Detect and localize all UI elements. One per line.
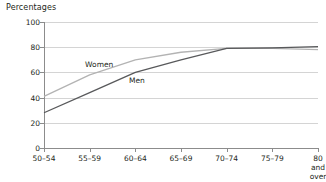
series-line-women (44, 48, 318, 96)
series-label-men: Men (129, 76, 145, 85)
series-line-men (44, 47, 318, 113)
line-chart: Percentages 020406080100 50–5455–5960–64… (0, 0, 326, 182)
series-label-women: Women (85, 60, 113, 69)
series-lines (0, 0, 326, 182)
